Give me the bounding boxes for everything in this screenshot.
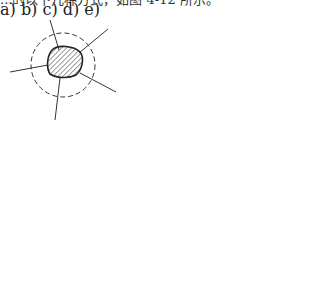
figure-diagram — [0, 0, 332, 287]
panel-a — [10, 20, 116, 120]
